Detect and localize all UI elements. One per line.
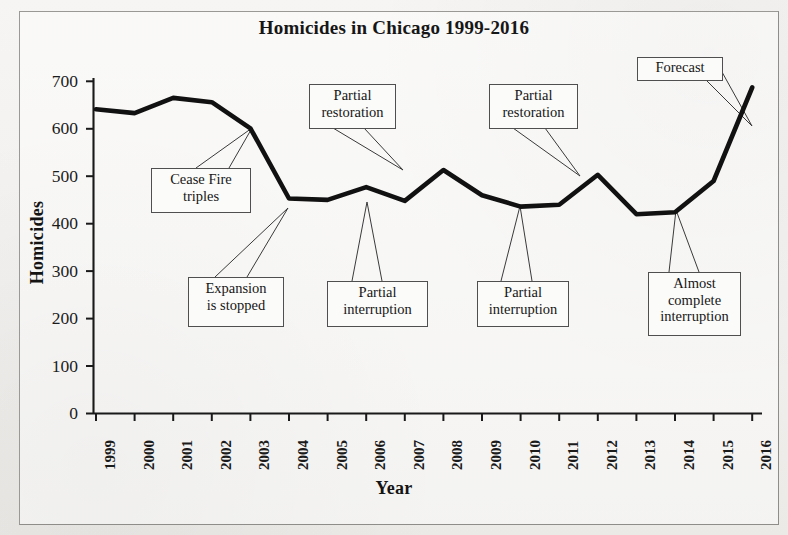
x-tick-label-2013: 2013: [642, 440, 659, 470]
x-tick-label-2016: 2016: [758, 440, 775, 470]
y-tick-label-700: 700: [32, 71, 78, 92]
x-tick-label-2000: 2000: [141, 440, 158, 470]
x-tick-marks: [96, 414, 752, 422]
x-tick-label-2004: 2004: [295, 440, 312, 470]
annotation-partial-restoration-1: Partial restoration: [309, 84, 396, 129]
annotation-almost-complete-interruption: Almost complete interruption: [648, 272, 741, 336]
y-tick-label-500: 500: [32, 166, 78, 187]
annotation-cease-fire-triples: Cease Fire triples: [151, 168, 251, 213]
annotation-forecast: Forecast: [637, 57, 723, 81]
x-tick-label-2007: 2007: [411, 440, 428, 470]
y-tick-label-600: 600: [32, 118, 78, 139]
annotation-partial-interruption-2: Partial interruption: [477, 281, 569, 327]
y-tick-label-100: 100: [32, 356, 78, 377]
x-tick-label-1999: 1999: [102, 440, 119, 470]
annotation-partial-interruption-1: Partial interruption: [327, 281, 428, 327]
y-tick-label-200: 200: [32, 308, 78, 329]
x-tick-label-2011: 2011: [565, 441, 582, 470]
y-tick-label-0: 0: [32, 403, 78, 424]
x-tick-label-2008: 2008: [449, 440, 466, 470]
annotation-partial-restoration-2: Partial restoration: [489, 84, 578, 129]
x-tick-label-2005: 2005: [334, 440, 351, 470]
x-tick-label-2015: 2015: [720, 440, 737, 470]
x-tick-label-2003: 2003: [256, 440, 273, 470]
x-tick-label-2001: 2001: [179, 440, 196, 470]
y-axis-title: Homicides: [27, 188, 48, 298]
x-tick-label-2012: 2012: [604, 440, 621, 470]
annotation-expansion-is-stopped: Expansion is stopped: [188, 277, 284, 327]
x-axis-title: Year: [0, 478, 788, 499]
x-tick-label-2009: 2009: [488, 440, 505, 470]
x-tick-label-2006: 2006: [372, 440, 389, 470]
y-tick-marks: [86, 81, 93, 413]
x-tick-label-2010: 2010: [527, 440, 544, 470]
x-tick-label-2002: 2002: [218, 440, 235, 470]
x-tick-label-2014: 2014: [681, 440, 698, 470]
